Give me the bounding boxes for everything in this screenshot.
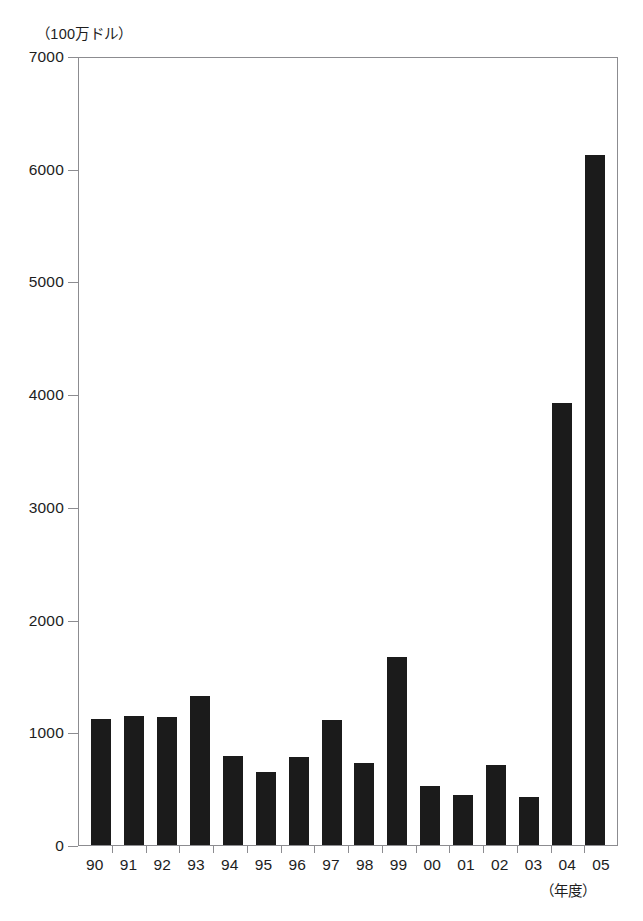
bar-91 — [124, 716, 144, 845]
x-axis-tick — [112, 846, 113, 853]
x-axis-tick-label-05: 05 — [581, 856, 621, 874]
bar-slot — [414, 58, 447, 845]
bar-slot — [184, 58, 217, 845]
y-axis-tick-label: 3000 — [0, 499, 64, 517]
bar-93 — [190, 696, 210, 845]
bar-90 — [91, 719, 111, 845]
bar-slot — [545, 58, 578, 845]
x-axis-tick — [551, 846, 552, 853]
x-axis-tick — [146, 846, 147, 853]
x-axis-unit-label: （年度） — [540, 879, 596, 900]
y-axis-tick-label: 2000 — [0, 612, 64, 630]
x-axis-tick — [281, 846, 282, 853]
bar-slot — [118, 58, 151, 845]
bar-04 — [552, 403, 572, 845]
y-axis-tick-label: 6000 — [0, 161, 64, 179]
y-axis-unit-label: （100万ドル） — [36, 22, 133, 43]
bar-slot — [381, 58, 414, 845]
y-axis-tick — [68, 621, 78, 622]
bar-slot — [151, 58, 184, 845]
x-axis-tick — [483, 846, 484, 853]
x-axis-tick — [213, 846, 214, 853]
bar-slot — [480, 58, 513, 845]
y-axis-tick-label: 7000 — [0, 48, 64, 66]
bar-slot — [315, 58, 348, 845]
x-axis-tick — [517, 846, 518, 853]
x-axis-tick — [314, 846, 315, 853]
bar-05 — [585, 155, 605, 845]
bar-slot — [348, 58, 381, 845]
y-axis-tick — [68, 733, 78, 734]
bar-94 — [223, 756, 243, 845]
bar-slot — [512, 58, 545, 845]
bar-02 — [486, 765, 506, 845]
bar-slot — [447, 58, 480, 845]
y-axis-tick — [68, 282, 78, 283]
bar-95 — [256, 772, 276, 845]
x-axis-tick — [449, 846, 450, 853]
bar-slot — [85, 58, 118, 845]
y-axis-tick — [68, 57, 78, 58]
bar-97 — [322, 720, 342, 845]
y-axis-tick — [68, 170, 78, 171]
y-axis-tick-label: 4000 — [0, 386, 64, 404]
y-axis-tick — [68, 846, 78, 847]
y-axis-tick-label: 5000 — [0, 273, 64, 291]
x-axis-tick — [179, 846, 180, 853]
bar-99 — [387, 657, 407, 845]
bar-series — [79, 58, 617, 845]
bar-slot — [249, 58, 282, 845]
bar-96 — [289, 757, 309, 845]
bar-slot — [282, 58, 315, 845]
y-axis-tick-label: 1000 — [0, 724, 64, 742]
y-axis-tick-label: 0 — [0, 837, 64, 855]
bar-slot — [217, 58, 250, 845]
plot-area — [78, 57, 618, 846]
bar-98 — [354, 763, 374, 845]
x-axis-tick — [348, 846, 349, 853]
bar-slot — [578, 58, 611, 845]
x-axis-tick — [416, 846, 417, 853]
y-axis-tick — [68, 508, 78, 509]
y-axis-tick — [68, 395, 78, 396]
bar-03 — [519, 797, 539, 845]
bar-chart-figure: （100万ドル） （年度） 01000200030004000500060007… — [0, 0, 643, 921]
x-axis-tick — [584, 846, 585, 853]
bar-01 — [453, 795, 473, 845]
bar-00 — [420, 786, 440, 845]
x-axis-tick — [382, 846, 383, 853]
x-axis-tick — [247, 846, 248, 853]
bar-92 — [157, 717, 177, 845]
